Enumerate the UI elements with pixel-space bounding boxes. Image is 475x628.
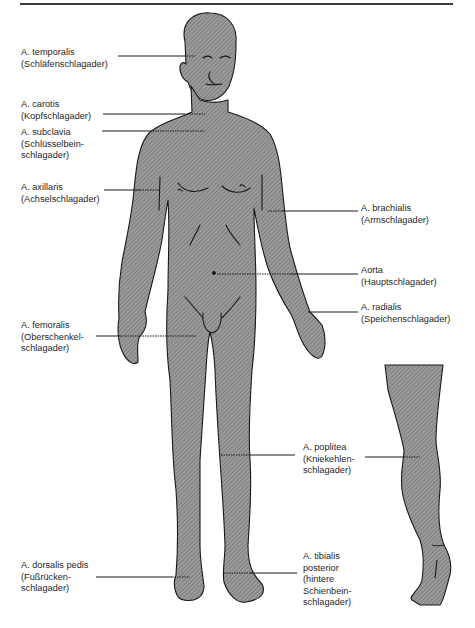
navel-dot bbox=[212, 271, 216, 275]
label-poplitea: A. poplitea (Kniekehlen- schlagader) bbox=[303, 442, 355, 477]
label-femoralis: A. femoralis (Oberschenkel- schlagader) bbox=[21, 320, 84, 355]
label-tibialis-posterior: A. tibialis posterior (hintere Schienbei… bbox=[303, 551, 352, 609]
label-axillaris: A. axillaris (Achselschlagader) bbox=[21, 182, 100, 205]
label-temporalis: A. temporalis (Schläfenschlagader) bbox=[21, 47, 108, 70]
side-leg bbox=[385, 365, 451, 605]
label-radialis: A. radialis (Speichenschlagader) bbox=[361, 302, 450, 325]
front-body bbox=[118, 13, 325, 602]
label-carotis: A. carotis (Kopfschlagader) bbox=[21, 99, 91, 122]
label-subclavia: A. subclavia (Schlüsselbein- schlagader) bbox=[21, 127, 84, 162]
label-brachialis: A. brachialis (Armschlagader) bbox=[361, 203, 429, 226]
label-dorsalis-pedis: A. dorsalis pedis (Fußrücken- schlagader… bbox=[21, 560, 88, 595]
label-aorta: Aorta (Hauptschlagader) bbox=[361, 265, 437, 288]
